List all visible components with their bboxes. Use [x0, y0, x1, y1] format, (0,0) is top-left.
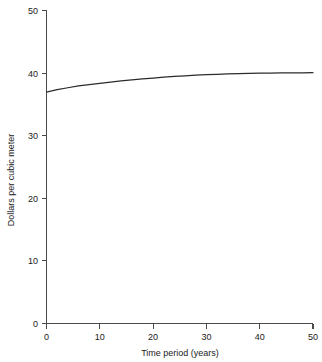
y-axis-title: Dollars per cubic meter	[6, 134, 16, 227]
x-tick-label-40: 40	[255, 332, 265, 342]
y-tick-marks	[42, 11, 47, 324]
chart-container: 50 40 30 20 10 0 0 10 20 30 40 50 Dollar…	[0, 0, 322, 362]
axes-group	[47, 10, 314, 324]
y-tick-label-0: 0	[33, 319, 38, 329]
y-tick-labels: 50 40 30 20 10 0	[28, 6, 38, 329]
y-tick-label-20: 20	[28, 194, 38, 204]
x-tick-label-10: 10	[95, 332, 105, 342]
x-tick-label-50: 50	[308, 332, 318, 342]
data-series-line	[47, 73, 314, 92]
x-axis-title: Time period (years)	[141, 348, 219, 358]
y-tick-label-40: 40	[28, 69, 38, 79]
x-tick-marks	[47, 324, 314, 329]
x-tick-label-20: 20	[148, 332, 158, 342]
y-tick-label-10: 10	[28, 256, 38, 266]
y-tick-label-50: 50	[28, 6, 38, 16]
line-chart: 50 40 30 20 10 0 0 10 20 30 40 50 Dollar…	[0, 0, 322, 362]
x-tick-label-0: 0	[44, 332, 49, 342]
y-tick-label-30: 30	[28, 131, 38, 141]
x-tick-labels: 0 10 20 30 40 50	[44, 332, 318, 342]
x-tick-label-30: 30	[201, 332, 211, 342]
